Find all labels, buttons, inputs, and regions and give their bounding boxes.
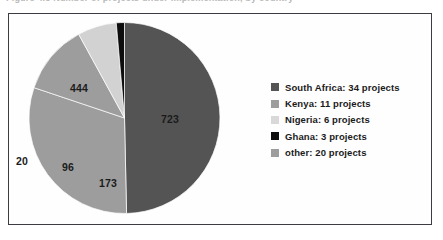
legend-item-ghana: Ghana: 3 projects [271,128,421,144]
pie-label-kenya: 444 [70,82,88,94]
legend-label-kenya: Kenya: 11 projects [285,98,371,109]
pie-label-nigeria: 96 [62,161,74,173]
legend-item-kenya: Kenya: 11 projects [271,95,421,111]
legend-swatch-other [271,149,279,157]
legend-item-other: other: 20 projects [271,145,421,161]
legend-item-nigeria: Nigeria: 6 projects [271,112,421,128]
legend-swatch-kenya [271,100,279,108]
legend-label-other: other: 20 projects [285,147,367,158]
legend-swatch-south-africa [271,83,279,91]
chart-legend: South Africa: 34 projectsKenya: 11 proje… [271,79,421,161]
legend-label-nigeria: Nigeria: 6 projects [285,114,370,125]
pie-label-other: 173 [99,177,117,189]
legend-label-ghana: Ghana: 3 projects [285,131,367,142]
legend-swatch-ghana [271,132,279,140]
legend-label-south-africa: South Africa: 34 projects [285,82,400,93]
legend-swatch-nigeria [271,116,279,124]
pie-label-south-africa: 723 [161,113,179,125]
pie-label-ghana: 20 [16,155,28,167]
legend-item-south-africa: South Africa: 34 projects [271,79,421,95]
pie-slices [29,23,220,214]
